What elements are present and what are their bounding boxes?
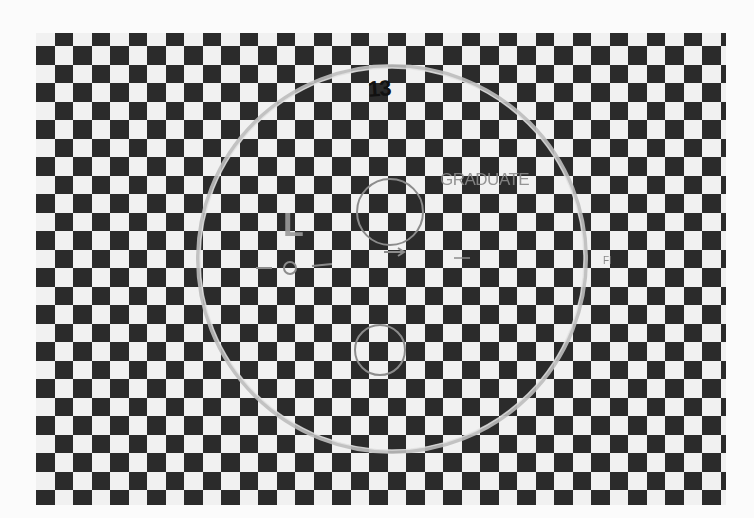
checker-square bbox=[277, 490, 296, 505]
checker-square bbox=[573, 435, 592, 454]
checker-square bbox=[536, 287, 555, 306]
checker-square bbox=[591, 268, 610, 287]
checker-square bbox=[258, 472, 277, 491]
checker-square bbox=[295, 268, 314, 287]
checker-square bbox=[702, 250, 721, 269]
checker-square bbox=[258, 194, 277, 213]
checker-square bbox=[443, 490, 462, 505]
checker-square bbox=[665, 287, 684, 306]
checker-square bbox=[573, 305, 592, 324]
checker-square bbox=[462, 194, 481, 213]
checker-square bbox=[277, 416, 296, 435]
checker-square bbox=[443, 65, 462, 84]
checker-square bbox=[499, 268, 518, 287]
checker-square bbox=[184, 176, 203, 195]
checker-square bbox=[73, 250, 92, 269]
checker-square bbox=[406, 139, 425, 158]
checker-square bbox=[166, 268, 185, 287]
checker-square bbox=[610, 33, 629, 47]
checker-square bbox=[425, 416, 444, 435]
handwritten-number: 13 bbox=[367, 75, 391, 103]
checker-square bbox=[425, 139, 444, 158]
checker-square bbox=[221, 490, 240, 505]
checker-square bbox=[628, 120, 647, 139]
checker-square bbox=[517, 287, 536, 306]
checker-square bbox=[684, 46, 703, 65]
checker-square bbox=[332, 435, 351, 454]
checker-square bbox=[388, 490, 407, 505]
checker-square bbox=[55, 157, 74, 176]
checker-square bbox=[221, 83, 240, 102]
checker-square bbox=[647, 250, 666, 269]
checker-square bbox=[388, 176, 407, 195]
checker-square bbox=[129, 435, 148, 454]
checker-square bbox=[647, 435, 666, 454]
checker-square bbox=[129, 194, 148, 213]
checker-square bbox=[166, 472, 185, 491]
checker-square bbox=[36, 46, 55, 65]
checker-square bbox=[462, 287, 481, 306]
checker-square bbox=[665, 453, 684, 472]
checker-square bbox=[258, 435, 277, 454]
checker-square bbox=[184, 490, 203, 505]
checker-square bbox=[702, 268, 721, 287]
checker-square bbox=[166, 102, 185, 121]
checker-square bbox=[388, 398, 407, 417]
checker-square bbox=[184, 194, 203, 213]
checker-square bbox=[203, 157, 222, 176]
checker-square bbox=[166, 305, 185, 324]
checker-square bbox=[369, 176, 388, 195]
checker-square bbox=[443, 268, 462, 287]
checker-square bbox=[36, 33, 55, 47]
checker-square bbox=[240, 398, 259, 417]
checker-square bbox=[36, 231, 55, 250]
checker-square bbox=[721, 33, 727, 47]
checker-square bbox=[129, 231, 148, 250]
checker-square bbox=[480, 342, 499, 361]
checker-square bbox=[610, 250, 629, 269]
checker-square bbox=[258, 83, 277, 102]
checker-square bbox=[221, 231, 240, 250]
checker-square bbox=[702, 139, 721, 158]
checker-square bbox=[628, 472, 647, 491]
checker-square bbox=[36, 102, 55, 121]
checker-square bbox=[628, 46, 647, 65]
checker-square bbox=[369, 46, 388, 65]
checker-square bbox=[702, 342, 721, 361]
checker-square bbox=[554, 342, 573, 361]
checker-square bbox=[166, 379, 185, 398]
checker-square bbox=[591, 33, 610, 47]
checker-square bbox=[628, 176, 647, 195]
checker-square bbox=[240, 194, 259, 213]
checker-square bbox=[647, 65, 666, 84]
checker-square bbox=[314, 231, 333, 250]
checker-square bbox=[295, 490, 314, 505]
checker-square bbox=[406, 33, 425, 47]
checker-square bbox=[36, 342, 55, 361]
checker-square bbox=[332, 342, 351, 361]
checker-square bbox=[610, 379, 629, 398]
checker-square bbox=[351, 176, 370, 195]
checker-square bbox=[240, 435, 259, 454]
checker-square bbox=[258, 305, 277, 324]
checker-square bbox=[536, 157, 555, 176]
checker-square bbox=[480, 46, 499, 65]
checker-square bbox=[462, 33, 481, 47]
checker-square bbox=[129, 139, 148, 158]
checker-square bbox=[573, 176, 592, 195]
checker-square bbox=[203, 416, 222, 435]
small-mark: FI bbox=[603, 255, 612, 266]
checker-square bbox=[92, 194, 111, 213]
checker-square bbox=[295, 416, 314, 435]
checker-square bbox=[573, 102, 592, 121]
checker-square bbox=[369, 250, 388, 269]
checker-square bbox=[314, 305, 333, 324]
checker-square bbox=[425, 361, 444, 380]
checker-square bbox=[554, 379, 573, 398]
checker-square bbox=[480, 398, 499, 417]
checker-square bbox=[332, 287, 351, 306]
checker-square bbox=[110, 102, 129, 121]
checker-square bbox=[332, 213, 351, 232]
checker-square bbox=[295, 453, 314, 472]
checker-square bbox=[610, 176, 629, 195]
